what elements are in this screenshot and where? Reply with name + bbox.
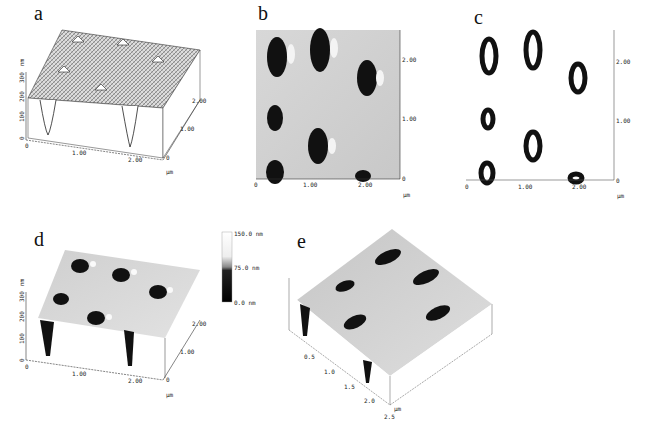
y-tick-c-0: 0 (616, 177, 620, 184)
panel-d: d 150.0 nm 75.0 nm (0, 220, 280, 400)
panel-b: b 0 1.00 2.00 0 1.00 2.00 µm (220, 0, 430, 200)
y-tick-a-0: 0 (166, 154, 170, 161)
unit-b: µm (403, 191, 410, 198)
surface-plot-d (0, 220, 280, 400)
z-tick-d-200: 200 (18, 311, 25, 322)
unit-e: µm (394, 405, 401, 412)
y-tick-d-0: 0 (166, 376, 170, 383)
panel-e: e 0.5 1.0 1.5 2.0 2.5 µm (270, 200, 550, 431)
z-tick-a-0: 0 (18, 136, 25, 140)
x-tick-d-2: 2.00 (128, 377, 142, 384)
surface-plot-e (270, 200, 550, 431)
y-tick-c-1: 1.00 (616, 117, 630, 124)
y-tick-b-2: 2.00 (402, 56, 416, 63)
z-unit-d: nm (18, 279, 25, 286)
surface-plot-a (0, 0, 220, 200)
x-tick-c-0: 0 (465, 183, 469, 190)
y-tick-b-1: 1.00 (402, 115, 416, 122)
colorbar (222, 232, 232, 302)
z-tick-d-300: 300 (18, 291, 25, 302)
unit-a: µm (166, 168, 173, 175)
y-tick-d-2: 2.00 (192, 320, 206, 327)
z-tick-a-100: 100 (18, 111, 25, 122)
x-tick-d-1: 1.00 (72, 370, 86, 377)
colorbar-max: 150.0 nm (234, 230, 263, 237)
z-tick-a-300: 300 (18, 72, 25, 83)
x-tick-b-2: 2.00 (358, 181, 372, 188)
panel-c: c 0 1.00 2.00 0 1.00 2.00 µm (430, 0, 647, 200)
x-tick-c-2: 2.00 (572, 183, 586, 190)
y-tick-a-1: 1.00 (180, 125, 194, 132)
height-map-b (220, 0, 430, 200)
x-tick-a-1: 1.00 (72, 149, 86, 156)
x-tick-d-0: 0 (25, 363, 29, 370)
x-tick-c-1: 1.00 (518, 183, 532, 190)
z-unit-a: nm (18, 59, 25, 66)
x-tick-e-1.0: 1.0 (324, 368, 335, 375)
colorbar-min: 0.0 nm (234, 299, 256, 306)
panel-a: a 0 100 200 300 nm 0 1.00 2.00 0 1.00 2.… (0, 0, 220, 200)
y-tick-d-1: 1.00 (180, 348, 194, 355)
y-tick-a-2: 2.00 (192, 97, 206, 104)
z-tick-d-0: 0 (18, 358, 25, 362)
x-tick-b-1: 1.00 (303, 181, 317, 188)
z-tick-d-100: 100 (18, 333, 25, 344)
x-tick-e-2.5: 2.5 (384, 413, 395, 420)
x-tick-e-1.5: 1.5 (344, 383, 355, 390)
x-tick-e-0.5: 0.5 (304, 353, 315, 360)
x-tick-a-2: 2.00 (128, 156, 142, 163)
x-tick-e-2.0: 2.0 (364, 397, 375, 404)
contour-map-c (430, 0, 647, 200)
y-tick-b-0: 0 (402, 175, 406, 182)
y-tick-c-2: 2.00 (616, 58, 630, 65)
unit-c: µm (617, 192, 624, 199)
x-tick-b-0: 0 (254, 181, 258, 188)
x-tick-a-0: 0 (25, 142, 29, 149)
z-tick-a-200: 200 (18, 91, 25, 102)
colorbar-mid: 75.0 nm (234, 264, 259, 271)
unit-d: µm (166, 391, 173, 398)
